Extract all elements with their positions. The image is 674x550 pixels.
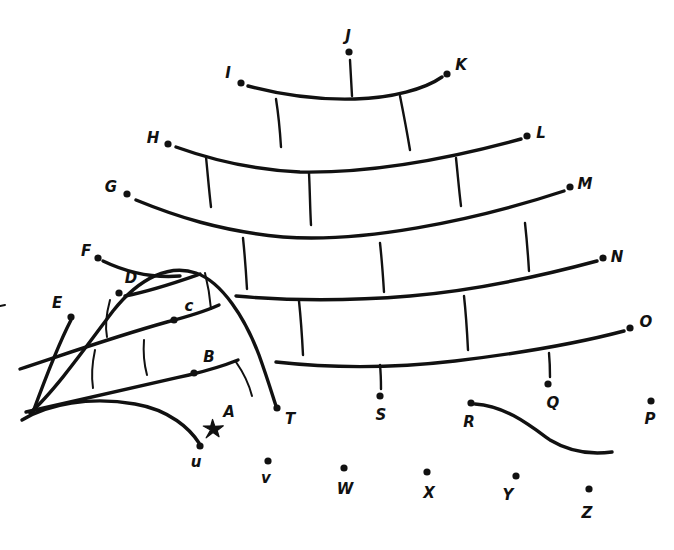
node-dot-v[interactable] <box>264 457 271 464</box>
bulge-tick-2 <box>92 350 95 388</box>
node-dot-n[interactable] <box>599 254 606 261</box>
spoke-ring4-left <box>299 301 303 355</box>
node-label-o: O <box>640 313 653 331</box>
node-w[interactable]: W <box>337 464 355 497</box>
arc-2-path <box>176 139 521 172</box>
node-e[interactable]: E <box>52 294 75 321</box>
node-f[interactable]: F <box>81 242 102 262</box>
spoke-s-tick <box>380 365 381 389</box>
node-label-m: M <box>578 175 593 193</box>
node-p[interactable]: P <box>645 397 656 427</box>
node-label-y: Y <box>503 486 516 504</box>
node-dot-l[interactable] <box>523 132 530 139</box>
node-label-w: W <box>337 480 355 498</box>
node-label-l: L <box>536 124 546 142</box>
bulge-tick-3 <box>144 340 147 375</box>
node-g[interactable]: G <box>105 178 131 198</box>
bulge-ridge-c-path <box>20 305 219 369</box>
arc-diagram-svg: BcDEFGHIJKLMNOPQRSTuvWXYZ A <box>0 0 674 550</box>
node-dot-d[interactable] <box>115 289 122 296</box>
node-dot-u[interactable] <box>196 442 203 449</box>
node-dot-g[interactable] <box>123 190 130 197</box>
spoke-ring2-right <box>456 158 461 206</box>
node-q[interactable]: Q <box>544 380 559 411</box>
node-y[interactable]: Y <box>503 472 520 503</box>
node-label-g: G <box>105 178 117 196</box>
node-l[interactable]: L <box>523 124 545 142</box>
node-label-s: S <box>376 406 387 424</box>
node-dot-f[interactable] <box>94 254 101 261</box>
node-n[interactable]: N <box>599 248 623 266</box>
node-o[interactable]: O <box>626 313 652 332</box>
spoke-ring2-center <box>309 173 311 225</box>
star-label-a: A <box>222 403 235 421</box>
bulge-left-edge-path <box>33 320 71 412</box>
node-label-n: N <box>611 248 624 266</box>
spoke-ring3-left <box>243 238 247 289</box>
node-label-q: Q <box>547 394 560 412</box>
node-dot-c[interactable] <box>170 316 177 323</box>
star-icon[interactable] <box>203 419 223 437</box>
node-dot-r[interactable] <box>467 399 474 406</box>
node-v[interactable]: v <box>261 457 272 486</box>
bulge-outer-path <box>30 270 276 413</box>
node-z[interactable]: Z <box>581 485 594 521</box>
node-r[interactable]: R <box>463 399 475 430</box>
node-label-p: P <box>645 410 656 428</box>
node-t[interactable]: T <box>273 404 296 427</box>
node-i[interactable]: I <box>225 64 244 87</box>
arc-3-path <box>136 191 564 238</box>
node-dot-i[interactable] <box>237 79 244 86</box>
spoke-ring1-right <box>400 96 410 150</box>
spoke-ring2-left <box>206 157 211 207</box>
node-x[interactable]: X <box>422 468 436 501</box>
node-h[interactable]: H <box>147 129 172 148</box>
spoke-ring3-center <box>380 243 384 292</box>
node-label-u: u <box>191 453 202 471</box>
node-dot-p[interactable] <box>647 397 654 404</box>
left-edge-tick-icon <box>0 305 5 306</box>
node-label-j: J <box>342 27 351 45</box>
node-k[interactable]: K <box>443 56 468 78</box>
node-label-k: K <box>455 56 468 74</box>
node-label-x: X <box>422 484 436 502</box>
diagram-canvas: BcDEFGHIJKLMNOPQRSTuvWXYZ A <box>0 0 674 550</box>
node-label-t: T <box>285 410 297 428</box>
arc-5-path <box>276 331 624 366</box>
bulge-tick-5 <box>236 362 252 396</box>
node-dot-x[interactable] <box>423 468 430 475</box>
node-dot-e[interactable] <box>67 313 74 320</box>
node-dot-k[interactable] <box>443 70 450 77</box>
node-dot-m[interactable] <box>566 183 573 190</box>
node-dot-q[interactable] <box>544 380 551 387</box>
node-dot-w[interactable] <box>340 464 347 471</box>
spoke-ring3-right <box>525 223 529 271</box>
node-s[interactable]: S <box>376 392 387 423</box>
node-m[interactable]: M <box>566 175 592 193</box>
node-dot-j[interactable] <box>345 48 352 55</box>
spoke-q-tick <box>549 353 550 377</box>
node-label-b: B <box>203 348 214 366</box>
node-dot-s[interactable] <box>376 392 383 399</box>
node-label-h: H <box>147 129 160 147</box>
node-u[interactable]: u <box>191 442 204 470</box>
arc-4-path <box>236 261 597 300</box>
node-label-c: c <box>185 297 194 315</box>
node-label-v: v <box>261 469 272 487</box>
node-label-e: E <box>52 294 63 312</box>
bulge-ridge-fd-path <box>103 261 180 276</box>
node-dot-b[interactable] <box>190 369 197 376</box>
arc-1-path <box>248 77 442 99</box>
node-dot-h[interactable] <box>164 140 171 147</box>
node-j[interactable]: J <box>342 27 352 56</box>
star-marker-group[interactable]: A <box>203 403 235 438</box>
spoke-ring4-right <box>464 296 468 350</box>
node-label-f: F <box>81 242 92 260</box>
spoke-j-tick <box>350 60 352 96</box>
node-dot-y[interactable] <box>512 472 519 479</box>
r-curve-path <box>475 404 612 453</box>
node-dot-z[interactable] <box>585 485 592 492</box>
node-label-i: I <box>225 64 231 82</box>
node-dot-o[interactable] <box>626 324 633 331</box>
node-dot-t[interactable] <box>273 404 280 411</box>
